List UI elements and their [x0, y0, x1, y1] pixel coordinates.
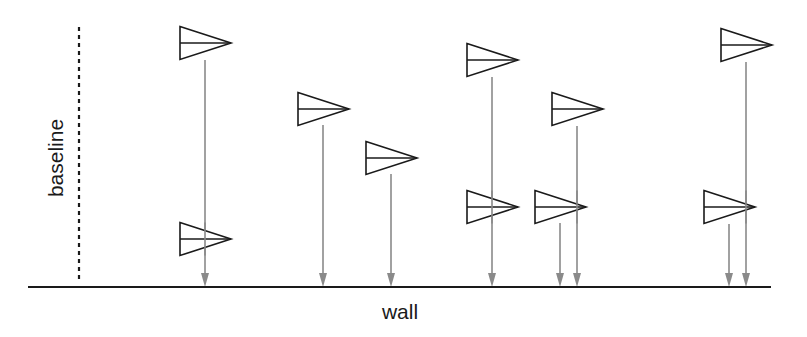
- arrow-head-icon: [488, 273, 496, 287]
- arrow-head-icon: [387, 273, 395, 287]
- arrow-head-icon: [556, 273, 564, 287]
- drop-arrow: [319, 125, 327, 287]
- baseline-label: baseline: [45, 119, 66, 197]
- flag-marker: [704, 191, 755, 224]
- flags-layer: [180, 27, 772, 256]
- drop-arrow: [725, 224, 733, 287]
- arrow-head-icon: [201, 273, 209, 287]
- drop-arrow: [387, 174, 395, 287]
- flag-marker: [298, 93, 349, 126]
- flag-marker: [535, 191, 586, 224]
- flag-marker: [180, 27, 231, 60]
- arrow-head-icon: [319, 273, 327, 287]
- flag-marker: [366, 142, 417, 175]
- flag-marker: [467, 44, 518, 77]
- arrows-layer: [201, 60, 750, 287]
- wall-label: wall: [382, 301, 418, 322]
- drop-arrow: [742, 62, 750, 287]
- arrow-head-icon: [725, 273, 733, 287]
- wall-baseline-diagram: [0, 0, 807, 337]
- flag-marker: [721, 29, 772, 62]
- flag-marker: [552, 93, 603, 126]
- drop-arrow: [556, 223, 564, 287]
- arrow-head-icon: [742, 273, 750, 287]
- arrow-head-icon: [573, 273, 581, 287]
- drop-arrow: [488, 77, 496, 287]
